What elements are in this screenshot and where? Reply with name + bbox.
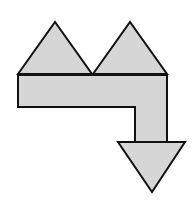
left-triangle — [18, 22, 92, 74]
diagram-canvas — [0, 0, 196, 206]
down-arrow-head — [118, 142, 185, 192]
right-triangle — [93, 22, 167, 74]
l-shaped-bar — [18, 75, 167, 142]
